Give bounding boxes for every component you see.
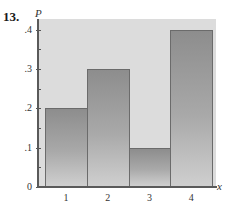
x-tick-label: 1 xyxy=(59,192,73,203)
bar-3 xyxy=(129,148,172,187)
y-axis xyxy=(37,19,39,188)
y-tick-label: 0 xyxy=(12,181,32,192)
bar-2 xyxy=(87,69,130,187)
x-tick-label: 3 xyxy=(142,192,156,203)
problem-number: 13. xyxy=(3,9,19,25)
x-axis xyxy=(37,186,217,188)
x-tick-label: 4 xyxy=(184,192,198,203)
y-tick-label: .4 xyxy=(12,24,32,35)
y-tick-label: .3 xyxy=(12,63,32,74)
bar-4 xyxy=(170,30,213,187)
y-tick-label: .1 xyxy=(12,142,32,153)
y-axis-label: P xyxy=(35,7,42,19)
y-tick-label: .2 xyxy=(12,102,32,113)
bar-1 xyxy=(45,108,88,187)
x-tick-label: 2 xyxy=(101,192,115,203)
x-axis-label: x xyxy=(217,180,222,192)
